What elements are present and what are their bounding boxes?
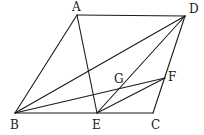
label-c: C [151, 119, 160, 131]
segment-bd [15, 16, 185, 113]
label-e: E [92, 119, 101, 131]
geometry-figure: A D B E C F G [0, 0, 204, 135]
label-f: F [168, 71, 176, 83]
segment-bf [15, 78, 165, 113]
segment-ab [15, 15, 77, 113]
label-b: B [10, 119, 19, 131]
segment-dc [153, 16, 185, 113]
label-g: G [114, 73, 124, 85]
segment-de [97, 16, 185, 113]
label-d: D [189, 3, 199, 15]
label-a: A [72, 1, 81, 13]
figure-lines [0, 0, 204, 135]
segment-ad [77, 15, 185, 16]
